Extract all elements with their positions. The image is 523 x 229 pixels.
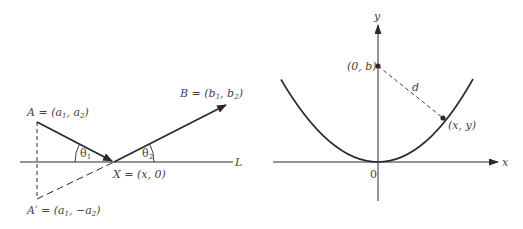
distance-segment-d xyxy=(378,66,443,118)
angle-theta1-arc xyxy=(75,144,80,162)
label-distance-d: d xyxy=(412,81,419,94)
label-y-axis: y xyxy=(373,10,381,23)
label-point-Aprime: A′ = (a1, −a2) xyxy=(26,204,101,218)
label-point-X: X = (x, 0) xyxy=(112,168,166,181)
diagram-canvas: A = (a1, a2) B = (b1, b2) X = (x, 0) A′ … xyxy=(0,0,523,229)
parabola-curve xyxy=(281,79,473,162)
label-point-B: B = (b1, b2) xyxy=(179,87,243,101)
dashed-line-Aprime-to-X xyxy=(37,162,114,199)
ray-X-to-B xyxy=(114,105,226,162)
parabola-diagram: y x 0 (0, b) (x, y) d xyxy=(273,10,509,201)
curve-point-dot xyxy=(440,115,445,120)
ray-A-to-X xyxy=(37,122,112,161)
label-curve-point: (x, y) xyxy=(448,119,476,132)
reflection-diagram: A = (a1, a2) B = (b1, b2) X = (x, 0) A′ … xyxy=(20,87,243,218)
label-origin: 0 xyxy=(370,168,377,181)
label-point-A: A = (a1, a2) xyxy=(26,106,89,120)
label-line-L: L xyxy=(234,156,242,169)
label-focus-point: (0, b) xyxy=(347,60,377,73)
label-x-axis: x xyxy=(502,156,509,169)
diagram-svg: A = (a1, a2) B = (b1, b2) X = (x, 0) A′ … xyxy=(0,0,523,229)
